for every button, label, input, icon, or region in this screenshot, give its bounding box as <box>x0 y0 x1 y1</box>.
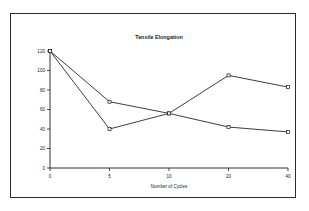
data-point-marker <box>49 50 52 53</box>
series-line-2 <box>50 51 288 132</box>
x-tick-label: 20 <box>226 174 232 179</box>
y-tick-label: 0 <box>42 166 45 171</box>
series-line-1 <box>50 51 288 129</box>
y-axis-ticks: 020406080100120 <box>37 49 50 171</box>
x-tick-label: 5 <box>108 174 111 179</box>
y-tick-label: 120 <box>37 49 45 54</box>
data-point-marker <box>287 130 290 133</box>
y-tick-label: 20 <box>40 146 46 151</box>
data-point-marker <box>108 100 111 103</box>
data-point-marker <box>227 126 230 129</box>
x-tick-label: 0 <box>49 174 52 179</box>
data-point-marker <box>287 86 290 89</box>
x-axis-title: Number of Cycles <box>151 184 188 189</box>
series-layer <box>49 50 290 134</box>
y-tick-label: 40 <box>40 127 46 132</box>
x-axis-ticks: 05102040 <box>49 168 291 179</box>
x-tick-label: 40 <box>285 174 291 179</box>
x-tick-label: 10 <box>166 174 172 179</box>
tensile-elongation-line-chart: Tensile Elongation 020406080100120 05102… <box>11 14 295 197</box>
chart-frame: Tensile Elongation 020406080100120 05102… <box>10 13 296 198</box>
data-point-marker <box>168 112 171 115</box>
data-point-marker <box>227 74 230 77</box>
y-tick-label: 60 <box>40 107 46 112</box>
chart-title: Tensile Elongation <box>135 34 183 40</box>
y-tick-label: 100 <box>37 68 45 73</box>
y-tick-label: 80 <box>40 88 46 93</box>
data-point-marker <box>108 128 111 131</box>
